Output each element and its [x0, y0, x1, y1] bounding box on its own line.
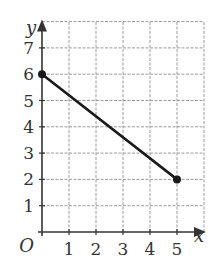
tick-labels: 123451234567Oxy	[19, 17, 204, 259]
endpoint-dot	[38, 70, 46, 78]
y-axis-label: y	[25, 17, 37, 38]
x-tick-label: 5	[172, 239, 183, 259]
line-chart: 123451234567Oxy	[0, 0, 211, 270]
origin-label: O	[19, 235, 34, 256]
x-axis-label: x	[194, 225, 204, 246]
y-tick-label: 4	[23, 117, 34, 137]
x-tick-label: 1	[64, 239, 75, 259]
x-tick-label: 4	[145, 239, 156, 259]
grid	[42, 22, 204, 232]
x-tick-label: 2	[91, 239, 102, 259]
y-tick-label: 1	[23, 196, 34, 216]
y-axis-arrow-icon	[37, 20, 47, 32]
axes	[37, 20, 206, 237]
y-tick-label: 7	[23, 38, 34, 58]
y-tick-label: 5	[23, 91, 34, 111]
endpoint-dot	[173, 175, 181, 183]
x-tick-label: 3	[118, 239, 129, 259]
y-tick-label: 6	[23, 64, 34, 84]
y-tick-label: 3	[23, 143, 34, 163]
y-tick-label: 2	[23, 169, 34, 189]
